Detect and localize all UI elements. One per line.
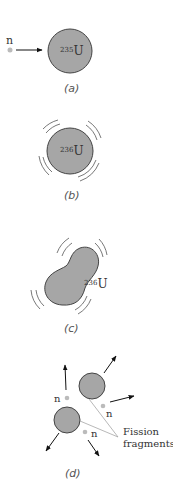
- panel-c: 236U (c): [31, 238, 108, 335]
- panel-b: 236U (b): [39, 120, 101, 202]
- fission-diagram: n 235U (a) 236U (b): [0, 0, 173, 490]
- fragments-label-line2: fragments: [123, 438, 173, 449]
- neutron-icon: [8, 48, 13, 53]
- fission-fragment-lower: [54, 407, 80, 433]
- neutron-label: n: [91, 428, 98, 439]
- fragments-label-line1: Fission: [123, 426, 160, 437]
- caption-b: (b): [64, 189, 80, 202]
- caption-c: (c): [64, 322, 79, 335]
- neutron-label: n: [54, 393, 61, 404]
- caption-a: (a): [64, 82, 79, 95]
- nucleus-label: 236U: [84, 277, 108, 291]
- neutron-icon: [101, 404, 106, 409]
- fission-fragment-upper: [79, 373, 105, 399]
- neutron-arrow-icon: [88, 440, 99, 456]
- neutron-icon: [83, 430, 88, 435]
- fragment-arrow-icon: [104, 356, 116, 373]
- deformed-nucleus: [45, 247, 99, 305]
- neutron-label: n: [106, 408, 113, 419]
- panel-a: n 235U (a): [6, 29, 92, 95]
- neutron-icon: [65, 396, 70, 401]
- panel-d: n n n Fission fragments (d): [46, 356, 173, 480]
- neutron-arrow-icon: [110, 396, 134, 402]
- neutron-arrow-icon: [65, 365, 66, 390]
- neutron-label: n: [6, 34, 13, 47]
- caption-d: (d): [65, 467, 81, 480]
- fragment-arrow-icon: [46, 433, 59, 451]
